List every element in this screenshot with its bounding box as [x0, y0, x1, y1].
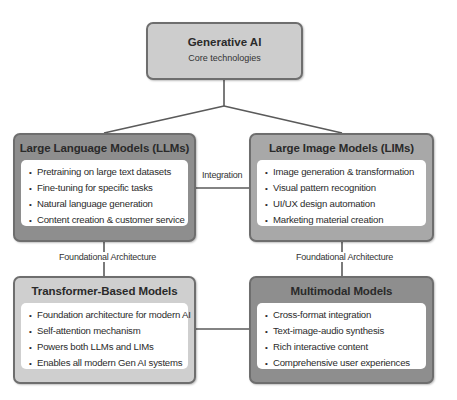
node-item-panel: Foundation architecture for modern AI Se…: [21, 303, 188, 369]
node-item-list: Cross-format integration Text-image-audi…: [257, 303, 426, 371]
foundational-architecture-label-left: Foundational Architecture: [57, 252, 158, 262]
list-item: Cross-format integration: [265, 307, 420, 323]
root-to-llm-connector: [104, 106, 224, 133]
list-item: Content creation & customer service: [29, 212, 182, 228]
node-title: Generative AI: [148, 36, 301, 48]
node-generative-ai: Generative AI Core technologies: [146, 22, 303, 80]
node-item-panel: Pretraining on large text datasets Fine-…: [21, 160, 188, 226]
list-item: Marketing material creation: [265, 212, 420, 228]
node-item-list: Image generation & transformation Visual…: [257, 160, 426, 228]
node-item-list: Foundation architecture for modern AI Se…: [21, 303, 188, 371]
foundational-architecture-label-right: Foundational Architecture: [294, 252, 395, 262]
list-item: Foundation architecture for modern AI: [29, 307, 182, 323]
list-item: Fine-tuning for specific tasks: [29, 180, 182, 196]
node-llm: Large Language Models (LLMs) Pretraining…: [13, 133, 196, 242]
node-subtitle: Core technologies: [148, 53, 301, 63]
list-item: Visual pattern recognition: [265, 180, 420, 196]
list-item: Pretraining on large text datasets: [29, 164, 182, 180]
list-item: Natural language generation: [29, 196, 182, 212]
node-item-panel: Cross-format integration Text-image-audi…: [257, 303, 426, 369]
node-transformer: Transformer-Based Models Foundation arch…: [13, 276, 196, 384]
list-item: UI/UX design automation: [265, 196, 420, 212]
node-title: Large Language Models (LLMs): [15, 142, 194, 154]
list-item: Rich interactive content: [265, 339, 420, 355]
node-lim: Large Image Models (LIMs) Image generati…: [249, 133, 434, 242]
node-multimodal: Multimodal Models Cross-format integrati…: [249, 276, 434, 384]
node-title: Transformer-Based Models: [15, 285, 194, 297]
node-title: Large Image Models (LIMs): [251, 142, 432, 154]
list-item: Enables all modern Gen AI systems: [29, 355, 182, 371]
root-to-lim-connector: [224, 106, 342, 133]
node-item-panel: Image generation & transformation Visual…: [257, 160, 426, 226]
list-item: Text-image-audio synthesis: [265, 323, 420, 339]
list-item: Self-attention mechanism: [29, 323, 182, 339]
list-item: Powers both LLMs and LIMs: [29, 339, 182, 355]
integration-label: Integration: [202, 170, 242, 180]
node-title: Multimodal Models: [251, 285, 432, 297]
list-item: Comprehensive user experiences: [265, 355, 420, 371]
list-item: Image generation & transformation: [265, 164, 420, 180]
node-item-list: Pretraining on large text datasets Fine-…: [21, 160, 188, 228]
